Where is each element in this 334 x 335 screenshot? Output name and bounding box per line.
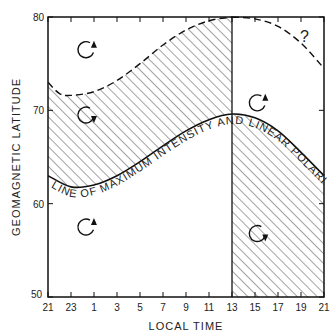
x-tick-label: 9: [183, 302, 189, 313]
question-mark: ?: [300, 28, 309, 45]
y-tick-label: 80: [33, 12, 45, 23]
x-tick-label: 21: [42, 302, 54, 313]
x-tick-label: 17: [272, 302, 284, 313]
chart: 212313579111315171921 50607080 LINE OF M…: [0, 0, 334, 335]
y-tick-label: 50: [31, 289, 43, 300]
x-tick-label: 3: [114, 302, 120, 313]
x-tick-label: 5: [137, 302, 143, 313]
x-tick-label: 11: [204, 302, 215, 313]
x-tick-label: 21: [318, 302, 330, 313]
dashed-boundary-right: [232, 17, 324, 68]
x-axis-label: LOCAL TIME: [149, 320, 224, 332]
x-tick-label: 13: [226, 302, 238, 313]
x-tick-label: 7: [160, 302, 166, 313]
x-tick-label: 15: [249, 302, 261, 313]
x-tick-label: 19: [295, 302, 307, 313]
y-axis-label: GEOMAGNETIC LATITUDE: [10, 78, 22, 236]
counterclockwise-rotation-icon: [78, 218, 97, 235]
y-tick-label: 70: [33, 105, 45, 116]
counterclockwise-rotation-icon: [78, 41, 97, 58]
y-tick-label: 60: [33, 199, 45, 210]
x-tick-label: 23: [65, 302, 77, 313]
counterclockwise-rotation-icon: [249, 94, 268, 111]
x-tick-label: 1: [91, 302, 97, 313]
